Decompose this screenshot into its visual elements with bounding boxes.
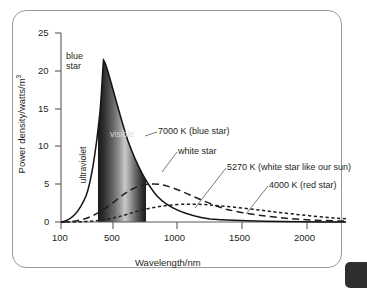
y-tick-20: 20 bbox=[38, 65, 49, 76]
y-tick-10: 10 bbox=[38, 140, 49, 151]
y-tick-5: 5 bbox=[44, 178, 49, 189]
annotation-white-star: white star bbox=[178, 146, 217, 156]
y-axis-label-text: Power density/watts/m bbox=[16, 78, 27, 173]
x-tick-2000: 2000 bbox=[294, 232, 315, 243]
annotation-5270k: 5270 K (white star like our sun) bbox=[227, 162, 351, 172]
blue-star-label-line2: star bbox=[66, 61, 81, 71]
x-tick-500: 500 bbox=[104, 232, 120, 243]
annotation-4000k: 4000 K (red star) bbox=[269, 180, 337, 190]
y-axis-label: Power density/watts/m3 bbox=[15, 54, 27, 194]
y-tick-25: 25 bbox=[38, 27, 49, 38]
x-axis-ticks bbox=[61, 222, 307, 229]
y-tick-0: 0 bbox=[44, 216, 49, 227]
x-axis-label: Wavelength/nm bbox=[135, 257, 201, 268]
blue-star-label-line1: blue bbox=[66, 51, 83, 61]
y-axis-label-exponent: 3 bbox=[15, 75, 22, 79]
ultraviolet-label: ultraviolet bbox=[78, 134, 88, 196]
y-tick-15: 15 bbox=[38, 103, 49, 114]
x-tick-100: 100 bbox=[52, 232, 68, 243]
y-axis-ticks bbox=[55, 33, 61, 222]
x-tick-1000: 1000 bbox=[164, 232, 185, 243]
visible-label: visible bbox=[110, 129, 134, 139]
x-tick-1500: 1500 bbox=[229, 232, 250, 243]
annotation-7000k: 7000 K (blue star) bbox=[158, 126, 230, 136]
visible-spectrum-band bbox=[98, 33, 146, 222]
